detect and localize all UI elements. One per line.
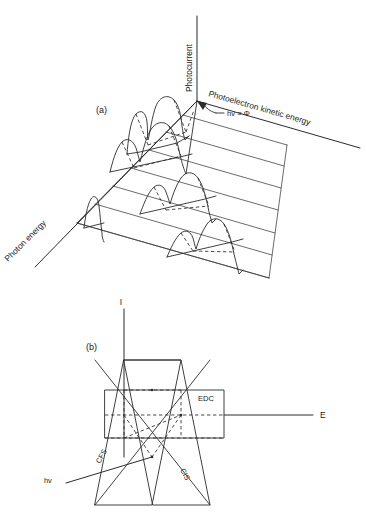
panel-a-base-edge [77,145,287,278]
edc-curve-intermediate [140,173,216,223]
panel-a: hv = Φ Photocurrent Photoelectron kineti… [2,16,360,278]
panel-b-caption: (b) [86,342,97,352]
panel-a-caption: (a) [96,105,107,115]
cfs-plane-label: CFS [94,448,109,465]
photon-energy-axis-b [66,457,152,483]
photon-energy-axis-b-label: hv [44,476,52,485]
hv-phi-label: hv = Φ [227,109,250,118]
panel-b-crossing-lines [95,360,210,505]
vertex-right [180,414,183,417]
panel-b: (b) I E hv EDC CFS CIS [44,297,326,505]
hv-phi-arrowhead [197,101,207,110]
photocurrent-axis-label: Photocurrent [184,43,194,92]
panel-b-vertices [151,389,183,459]
figure-root: hv = Φ Photocurrent Photoelectron kineti… [0,0,366,520]
energy-axis-label: E [320,410,326,420]
edc-plane-label: EDC [198,394,215,403]
vertex-bottom [151,456,154,459]
edc-curve-lowest [84,197,104,242]
edc-plane: EDC [105,390,224,438]
photon-energy-axis-label: Photon energy [2,217,48,263]
edc-curve-low [167,219,243,274]
figure-svg: hv = Φ Photocurrent Photoelectron kineti… [0,0,366,520]
edc-curve-highest [127,97,189,154]
panel-a-construction-dashes [122,100,235,252]
intensity-axis-label: I [120,297,122,307]
panel-a-axes [35,16,360,267]
photoelectron-kinetic-energy-axis-label: Photoelectron kinetic energy [207,88,312,127]
vertex-top [151,389,154,392]
